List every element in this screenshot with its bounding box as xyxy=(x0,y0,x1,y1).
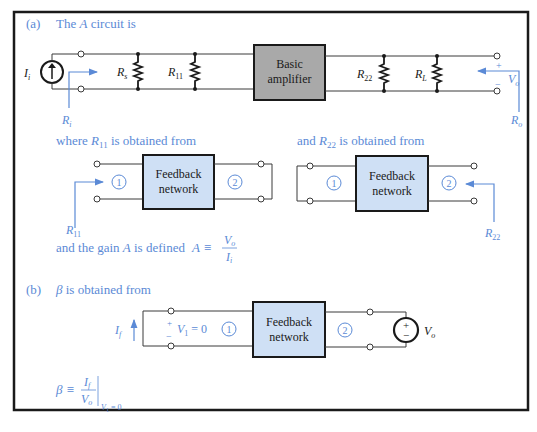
svg-text:network: network xyxy=(269,330,308,344)
svg-text:network: network xyxy=(159,182,198,196)
terminal xyxy=(78,86,84,92)
amplifier-label-line2: amplifier xyxy=(268,72,312,86)
svg-text:β ≡: β ≡ xyxy=(55,382,75,397)
vo-plus: + xyxy=(496,60,502,71)
amplifier-label-line1: Basic xyxy=(276,57,303,71)
v1-condition: V1 = 0 xyxy=(177,322,207,338)
r11-description: where R11 is obtained from xyxy=(56,133,196,150)
svg-text:1: 1 xyxy=(117,177,122,188)
terminal xyxy=(78,51,84,57)
svg-text:1: 1 xyxy=(332,178,337,189)
vo-minus: − xyxy=(495,79,501,90)
svg-text:network: network xyxy=(372,184,411,198)
svg-text:1: 1 xyxy=(227,324,232,335)
svg-text:Feedback: Feedback xyxy=(156,167,202,181)
svg-text:The A circuit is: The A circuit is xyxy=(56,16,136,31)
terminal xyxy=(494,53,500,59)
svg-text:2: 2 xyxy=(447,178,452,189)
svg-text:A ≡: A ≡ xyxy=(191,240,212,255)
svg-text:and the gain A is defined: and the gain A is defined xyxy=(56,240,185,255)
svg-text:(b): (b) xyxy=(26,282,41,297)
svg-text:Feedback: Feedback xyxy=(369,169,415,183)
svg-text:+: + xyxy=(167,318,172,328)
svg-text:(a): (a) xyxy=(26,16,40,31)
feedback-amplifier-diagram: (a) The A circuit is Ii Ri Rs R11 Ba xyxy=(0,0,537,432)
svg-text:β is obtained from: β is obtained from xyxy=(55,282,151,297)
svg-text:Feedback: Feedback xyxy=(266,315,312,329)
r22-description: and R22 is obtained from xyxy=(297,133,424,150)
svg-text:−: − xyxy=(166,331,172,342)
svg-text:2: 2 xyxy=(233,177,238,188)
svg-text:−: − xyxy=(403,329,409,341)
svg-text:2: 2 xyxy=(343,325,348,336)
svg-text:V1 = 0: V1 = 0 xyxy=(101,403,121,413)
